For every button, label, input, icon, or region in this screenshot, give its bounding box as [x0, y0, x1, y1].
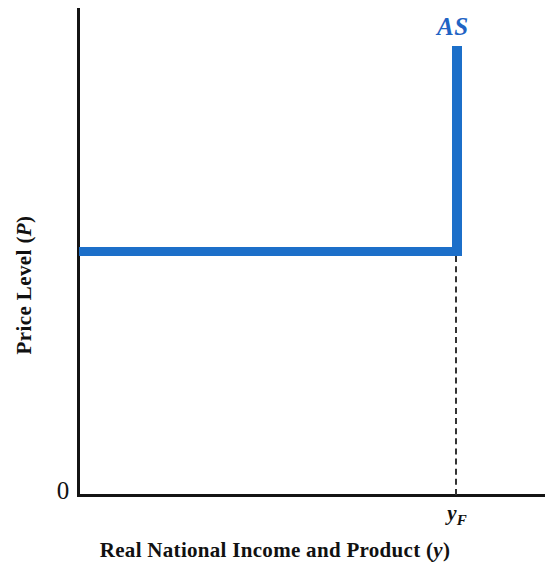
y-axis-title: Price Level (P)	[11, 185, 37, 385]
yf-reference-dashed-line	[455, 256, 457, 495]
x-tick-label-yf-variable: y	[447, 501, 456, 525]
x-axis-title-variable: y	[433, 538, 443, 562]
y-axis-title-close: )	[12, 216, 36, 223]
x-tick-label-yf-subscript: F	[457, 512, 467, 528]
origin-label: 0	[52, 478, 74, 503]
x-axis-title-close: )	[443, 538, 450, 562]
x-axis-line	[77, 494, 545, 497]
as-curve-label: AS	[437, 13, 469, 41]
aggregate-supply-chart: 0 AS yF Price Level (P) Real National In…	[0, 0, 550, 566]
y-axis-title-variable: P	[12, 223, 36, 236]
x-axis-title-main: Real National Income and Product (	[100, 538, 434, 562]
x-axis-title: Real National Income and Product (y)	[0, 538, 550, 563]
y-axis-title-text: Price Level (P)	[12, 216, 37, 355]
x-tick-label-yf: yF	[425, 503, 489, 528]
y-axis-title-main: Price Level (	[12, 236, 36, 354]
as-curve-vertical-segment	[452, 46, 462, 256]
as-curve-horizontal-segment	[79, 247, 458, 256]
